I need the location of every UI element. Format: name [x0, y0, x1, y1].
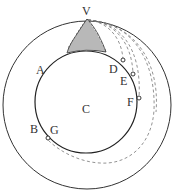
label-g: G [50, 123, 59, 137]
label-v: V [82, 4, 91, 18]
point-f [137, 96, 141, 100]
label-e: E [120, 74, 127, 88]
label-d: D [109, 62, 118, 76]
label-b: B [30, 122, 38, 136]
hatched-mound [67, 19, 106, 53]
label-f: F [127, 95, 134, 109]
point-e [131, 72, 135, 76]
label-c: C [82, 102, 90, 116]
trajectories [48, 20, 156, 163]
diagram-canvas: V A B C D E F G [0, 0, 175, 194]
label-a: A [36, 63, 45, 77]
point-d [121, 58, 125, 62]
